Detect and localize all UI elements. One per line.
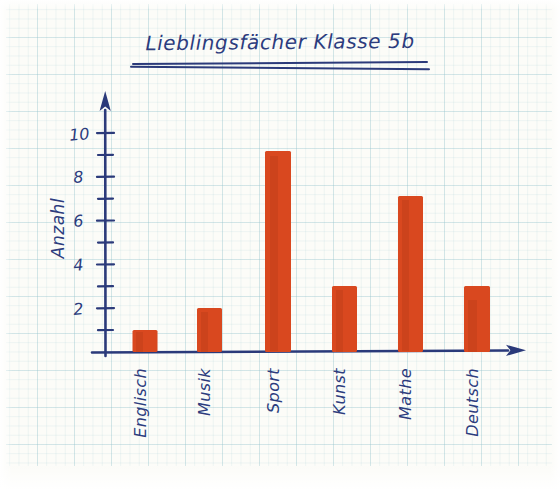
y-tick-label-10: 10: [68, 124, 90, 145]
chart-svg: 2 4 6 8 10 Anzahl: [0, 0, 560, 489]
y-axis: [100, 91, 111, 356]
bar-kunst: [332, 286, 357, 352]
x-category-label-sport: Sport: [264, 368, 283, 413]
y-tick-label-2: 2: [73, 299, 85, 319]
y-axis-title: Anzahl: [48, 198, 68, 259]
y-tick-label-6: 6: [73, 211, 85, 231]
x-category-label-deutsch: Deutsch: [463, 368, 482, 437]
y-tick-label-4: 4: [73, 255, 85, 275]
bars-group: [133, 151, 491, 352]
bar-musik: [197, 308, 222, 352]
bar-mathe: [398, 196, 423, 352]
y-axis-arrowhead: [100, 91, 111, 111]
x-category-label-kunst: Kunst: [330, 368, 349, 415]
bar-texture: [136, 156, 477, 352]
y-tick-label-8: 8: [73, 167, 85, 187]
x-category-label-musik: Musik: [195, 368, 214, 416]
x-axis-category-labels: Englisch Musik Sport Kunst Mathe Deutsch: [131, 368, 482, 438]
worksheet-page: Lieblingsfächer Klasse 5b: [0, 0, 560, 489]
x-category-label-mathe: Mathe: [396, 368, 415, 420]
bar-chart: 2 4 6 8 10 Anzahl: [0, 0, 560, 489]
x-category-label-englisch: Englisch: [131, 368, 150, 438]
y-axis-tick-labels: 2 4 6 8 10: [68, 124, 90, 319]
